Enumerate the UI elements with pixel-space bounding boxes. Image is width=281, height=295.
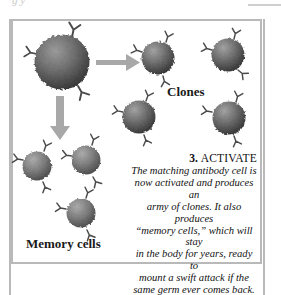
caption-line: army of clones. It also produces bbox=[131, 201, 257, 225]
clone-cell bbox=[112, 90, 155, 146]
arrow-right-icon bbox=[96, 54, 140, 71]
memory-cell bbox=[12, 140, 51, 193]
figure-root: g y bbox=[0, 0, 281, 295]
caption-line: The matching antibody cell is bbox=[131, 165, 257, 177]
caption-step-number: 3. bbox=[189, 152, 198, 164]
memory-cell bbox=[55, 187, 95, 241]
caption-line: in the body for years, ready to bbox=[131, 248, 257, 272]
caption-line: same germ ever comes back. bbox=[131, 284, 257, 295]
clones-label: Clones bbox=[167, 84, 205, 100]
caption-line: mount a swift attack if the bbox=[131, 272, 257, 284]
caption-heading: 3. ACTIVATE bbox=[131, 152, 257, 164]
caption-line: “memory cells,” which will stay bbox=[131, 225, 257, 249]
antibody-cell-parent bbox=[24, 23, 89, 100]
clone-cell bbox=[131, 31, 174, 87]
arrow-down-icon bbox=[50, 96, 70, 140]
caption-step-title: ACTIVATE bbox=[201, 152, 257, 164]
memory-cells-label: Memory cells bbox=[26, 236, 101, 252]
clone-cell bbox=[201, 91, 245, 147]
caption-block: 3. ACTIVATE The matching antibody cell i… bbox=[131, 152, 257, 295]
clone-cell bbox=[201, 28, 248, 79]
memory-cell bbox=[62, 134, 102, 188]
caption-line: now activated and produces an bbox=[131, 177, 257, 201]
